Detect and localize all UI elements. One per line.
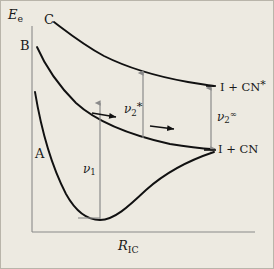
diagram-canvas — [0, 0, 274, 269]
potential-curve-c — [54, 22, 214, 86]
nu2-star-label: ν2* — [124, 101, 143, 117]
asymptote-upper-star: * — [260, 78, 265, 91]
x-axis-label: RIC — [118, 239, 139, 254]
nu1-subscript: 1 — [90, 167, 96, 177]
potential-curve-b — [37, 47, 214, 149]
dissociation-arrow-right — [150, 126, 174, 129]
nu2-star-superscript: * — [137, 99, 143, 113]
nu2-infinity-label: ν2∞ — [217, 110, 237, 125]
nu1-label: ν1 — [83, 163, 96, 177]
curve-label-a: A — [35, 147, 44, 160]
asymptote-label-lower: I + CN — [218, 144, 258, 156]
x-axis-label-symbol: R — [118, 238, 128, 253]
nu2-infinity-superscript: ∞ — [230, 109, 237, 119]
curve-label-c: C — [44, 13, 54, 26]
y-axis-label-subscript: e — [18, 13, 24, 24]
y-axis-label: Ee — [8, 8, 23, 23]
potential-energy-diagram: Ee RIC C B A I + CN* I + CN ν1 ν2* ν2∞ — [0, 0, 274, 269]
x-axis-label-subscript: IC — [128, 244, 139, 255]
asymptote-label-upper: I + CN* — [220, 80, 266, 94]
asymptote-upper-text: I + CN — [220, 80, 260, 94]
y-axis-label-symbol: E — [8, 7, 18, 22]
curve-label-b: B — [20, 39, 30, 52]
